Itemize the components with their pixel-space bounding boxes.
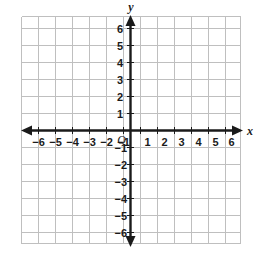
y-tick-label-neg2: −2 bbox=[114, 159, 127, 171]
y-tick-label-pos2: 2 bbox=[117, 91, 123, 103]
x-tick-label-neg4: −4 bbox=[66, 136, 79, 148]
y-axis-name: y bbox=[126, 0, 134, 14]
y-tick-label-neg4: −4 bbox=[114, 193, 127, 205]
x-axis-name: x bbox=[246, 124, 253, 138]
x-tick-label-neg3: −3 bbox=[83, 136, 96, 148]
x-tick-label-pos4: 4 bbox=[195, 136, 202, 148]
origin-label: O bbox=[117, 133, 126, 147]
y-tick-label-neg3: −3 bbox=[114, 176, 127, 188]
y-axis-negative-labels: −1 −2 −3 −4 −5 −6 bbox=[114, 142, 127, 239]
x-tick-label-pos5: 5 bbox=[212, 136, 218, 148]
y-axis-positive-labels: 6 5 4 3 2 1 bbox=[117, 23, 124, 120]
x-tick-label-neg6: −6 bbox=[32, 136, 45, 148]
x-axis-arrow-left-icon bbox=[21, 126, 32, 136]
x-tick-label-pos1: 1 bbox=[144, 136, 150, 148]
x-tick-label-neg2: −2 bbox=[100, 136, 113, 148]
coordinate-plane: −6 −5 −4 −3 −2 −1 1 2 3 4 5 6 6 5 4 3 2 … bbox=[0, 0, 260, 259]
x-axis bbox=[21, 126, 243, 136]
y-tick-label-pos5: 5 bbox=[117, 40, 123, 52]
y-tick-label-pos3: 3 bbox=[117, 74, 123, 86]
y-axis-arrow-down-icon bbox=[126, 236, 136, 247]
coordinate-grid-svg: −6 −5 −4 −3 −2 −1 1 2 3 4 5 6 6 5 4 3 2 … bbox=[0, 0, 260, 259]
y-tick-label-neg5: −5 bbox=[114, 210, 127, 222]
x-tick-label-pos2: 2 bbox=[161, 136, 167, 148]
x-tick-label-pos3: 3 bbox=[178, 136, 184, 148]
x-tick-label-neg5: −5 bbox=[49, 136, 62, 148]
y-tick-label-pos4: 4 bbox=[117, 57, 124, 69]
y-tick-label-pos6: 6 bbox=[117, 23, 123, 35]
x-tick-label-pos6: 6 bbox=[228, 136, 234, 148]
y-tick-label-pos1: 1 bbox=[117, 108, 123, 120]
x-axis-arrow-right-icon bbox=[232, 126, 243, 136]
y-tick-label-neg6: −6 bbox=[114, 227, 127, 239]
